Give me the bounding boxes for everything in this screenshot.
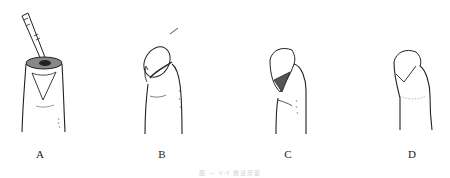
panel-d-drawing	[386, 0, 446, 140]
figure-caption: 图 — V-Y 推进皮瓣	[170, 168, 290, 177]
flap-covering-tip-illustration	[262, 0, 322, 140]
panel-d-label: D	[402, 148, 422, 160]
panel-a-label: A	[30, 148, 50, 160]
panel-b-label: B	[152, 148, 172, 160]
panel-b-drawing	[132, 0, 192, 140]
panel-a-drawing	[14, 0, 74, 140]
panel-c-drawing	[262, 0, 322, 140]
panel-c-label: C	[278, 148, 298, 160]
fingertip-scalpel-illustration	[14, 0, 74, 140]
flap-sutured-illustration	[386, 0, 446, 140]
flap-advancement-illustration	[132, 0, 192, 140]
